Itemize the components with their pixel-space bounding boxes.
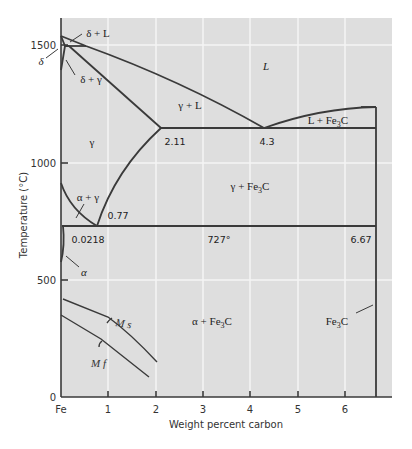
y-tick-1000: 1000 [31,158,56,169]
point-0-0218: 0.0218 [71,234,104,245]
label-alpha: α [81,266,87,278]
x-tick-fe: Fe [55,404,66,415]
plot-area [61,18,392,397]
point-0-77: 0.77 [107,210,128,221]
y-tick-0: 0 [50,392,56,403]
x-axis-title: Weight percent carbon [169,419,283,430]
point-4-3: 4.3 [259,136,274,147]
y-tick-1500: 1500 [31,40,56,51]
x-tick-1: 1 [105,404,111,415]
x-tick-6: 6 [342,404,348,415]
point-2-11: 2.11 [164,136,185,147]
label-gamma: γ [89,136,95,148]
label-delta-liquid: δ + L [86,27,110,39]
y-tick-500: 500 [37,275,56,286]
phase-diagram-chart: Fe 1 2 3 4 5 6 0 500 1000 1500 Weight pe… [0,0,412,449]
label-delta: δ [38,55,44,67]
label-mf: M f [90,357,108,369]
y-axis-title: Temperature (°C) [18,172,29,259]
label-liquid: L [262,60,269,72]
x-tick-3: 3 [200,404,206,415]
label-delta-gamma: δ + γ [80,73,102,85]
label-gamma-liquid: γ + L [177,99,202,111]
label-alpha-gamma: α + γ [77,191,99,203]
x-tick-2: 2 [153,404,159,415]
label-ms: M s [114,316,133,330]
point-6-67: 6.67 [350,234,371,245]
x-tick-4: 4 [247,404,253,415]
x-tick-5: 5 [295,404,301,415]
point-727: 727° [208,234,231,245]
